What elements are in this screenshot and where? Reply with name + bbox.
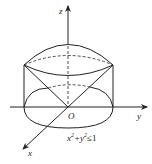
region-label: x2+y2≤1	[66, 132, 97, 143]
z-axis-label: z	[58, 6, 63, 16]
bottom-ellipse-back-left	[24, 88, 48, 107]
cone-left-generator	[24, 65, 68, 107]
cone-right-generator	[68, 65, 113, 107]
top-ellipse-front	[24, 65, 113, 76]
x-axis-label: x	[27, 148, 32, 158]
top-ellipse-back	[24, 56, 113, 66]
cylinder-cone-diagram: z y x O x2+y2≤1	[0, 0, 152, 164]
bottom-ellipse-back-mid	[48, 85, 90, 88]
bottom-ellipse-back-right	[90, 87, 113, 107]
origin-label: O	[68, 111, 75, 121]
top-dome-arc	[24, 45, 113, 66]
y-axis-label: y	[136, 111, 141, 121]
